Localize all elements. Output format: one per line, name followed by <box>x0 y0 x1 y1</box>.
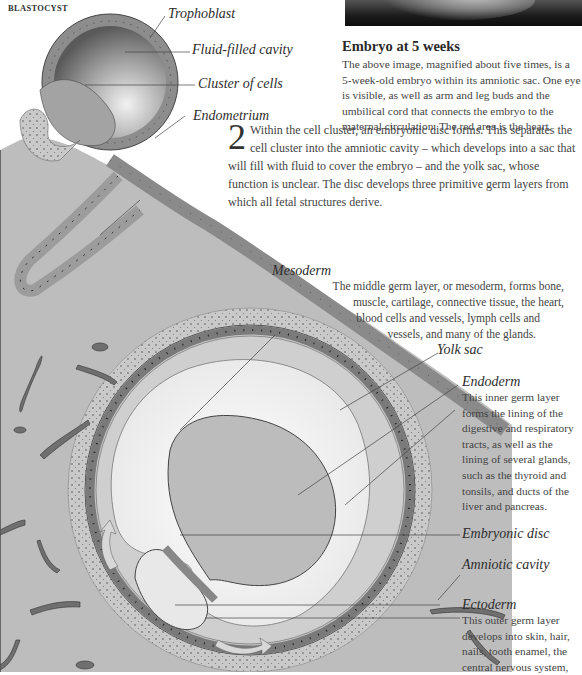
label-fluid-filled-cavity: Fluid-filled cavity <box>192 42 293 58</box>
caption-title: Embryo at 5 weeks <box>342 38 582 55</box>
ectoderm-description: This outer germ layer develops into skin… <box>462 613 582 675</box>
mesoderm-description: The middle germ layer, or mesoderm, form… <box>286 278 564 342</box>
label-endoderm: Endoderm <box>462 374 582 390</box>
label-mesoderm: Mesoderm <box>272 263 331 279</box>
ectoderm-block: Ectoderm This outer germ layer develops … <box>462 597 582 675</box>
endoderm-line: tracts, as well as the <box>462 437 582 453</box>
label-yolk-sac: Yolk sac <box>437 342 483 358</box>
step-text: Within the cell cluster, an embryonic di… <box>228 123 575 209</box>
endoderm-line: digestive and respiratory <box>462 421 582 437</box>
step-2-paragraph: 2 Within the cell cluster, an embryonic … <box>228 120 578 210</box>
label-cluster-of-cells: Cluster of cells <box>198 76 283 92</box>
endoderm-line: liver and pancreas. <box>462 499 582 515</box>
endoderm-line: tonsils, and ducts of the <box>462 484 582 500</box>
label-ectoderm: Ectoderm <box>462 597 582 613</box>
endoderm-block: Endoderm This inner germ layer forms the… <box>462 374 582 515</box>
ectoderm-line: This outer germ layer <box>462 613 582 629</box>
endoderm-line: This inner germ layer <box>462 390 582 406</box>
section-label: BLASTOCYST <box>8 3 68 13</box>
mesoderm-line: blood cells and vessels, lymph cells and <box>286 310 540 326</box>
endoderm-description: This inner germ layer forms the lining o… <box>462 390 582 515</box>
label-amniotic-cavity: Amniotic cavity <box>462 557 549 573</box>
ectoderm-line: nails, tooth enamel, the <box>462 644 582 660</box>
endoderm-line: forms the lining of the <box>462 406 582 422</box>
ectoderm-line: central nervous system, <box>462 660 582 675</box>
mesoderm-line: The middle germ layer, or mesoderm, form… <box>286 278 564 294</box>
endoderm-line: such as the thyroid and <box>462 468 582 484</box>
embryo-photo-highlight <box>385 0 535 20</box>
endoderm-line: lining of several glands, <box>462 452 582 468</box>
ectoderm-line: develops into skin, hair, <box>462 629 582 645</box>
embryo-photo <box>345 0 582 26</box>
label-embryonic-disc: Embryonic disc <box>462 526 549 542</box>
mesoderm-line: muscle, cartilage, connective tissue, th… <box>286 294 564 310</box>
blastocyst <box>20 14 178 161</box>
mesoderm-line: vessels, and many of the glands. <box>286 326 536 342</box>
step-number: 2 <box>228 122 246 152</box>
label-trophoblast: Trophoblast <box>168 6 235 22</box>
